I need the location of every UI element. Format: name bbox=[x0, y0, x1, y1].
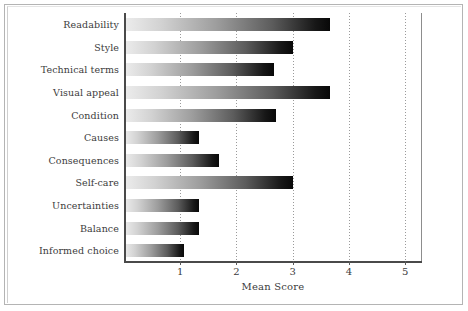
category-label-visual-appeal: Visual appeal bbox=[1, 87, 119, 98]
tick-mark-2 bbox=[236, 261, 237, 265]
category-label-self-care: Self-care bbox=[1, 177, 119, 188]
x-axis-line bbox=[124, 261, 422, 263]
bar-self-care bbox=[124, 176, 293, 189]
bar-technical-terms bbox=[124, 63, 274, 76]
plot-area bbox=[124, 13, 422, 262]
gridline-5 bbox=[405, 13, 406, 262]
category-label-style: Style bbox=[1, 42, 119, 53]
plot-right-edge bbox=[421, 13, 422, 263]
tick-mark-3 bbox=[293, 261, 294, 265]
gridline-3 bbox=[293, 13, 294, 262]
category-label-consequences: Consequences bbox=[1, 155, 119, 166]
category-label-readability: Readability bbox=[1, 19, 119, 30]
tick-mark-5 bbox=[405, 261, 406, 265]
bar-balance bbox=[124, 222, 199, 235]
category-label-causes: Causes bbox=[1, 132, 119, 143]
category-label-uncertainties: Uncertainties bbox=[1, 200, 119, 211]
category-label-technical-terms: Technical terms bbox=[1, 64, 119, 75]
bar-informed-choice bbox=[124, 244, 184, 257]
bar-style bbox=[124, 41, 293, 54]
x-tick-label-2: 2 bbox=[224, 266, 248, 277]
gridline-4 bbox=[349, 13, 350, 262]
bar-visual-appeal bbox=[124, 86, 330, 99]
x-tick-label-4: 4 bbox=[337, 266, 361, 277]
x-axis-title: Mean Score bbox=[124, 281, 422, 292]
bar-uncertainties bbox=[124, 199, 199, 212]
bar-consequences bbox=[124, 154, 219, 167]
x-tick-label-3: 3 bbox=[281, 266, 305, 277]
bar-condition bbox=[124, 109, 276, 122]
bar-readability bbox=[124, 18, 330, 31]
tick-mark-4 bbox=[349, 261, 350, 265]
x-tick-label-1: 1 bbox=[168, 266, 192, 277]
figure-container: ReadabilityStyleTechnical termsVisual ap… bbox=[0, 0, 468, 311]
tick-mark-1 bbox=[180, 261, 181, 265]
y-axis-line bbox=[124, 13, 126, 263]
category-label-balance: Balance bbox=[1, 223, 119, 234]
bar-causes bbox=[124, 131, 199, 144]
x-tick-label-5: 5 bbox=[393, 266, 417, 277]
category-axis-labels: ReadabilityStyleTechnical termsVisual ap… bbox=[0, 13, 119, 262]
category-label-condition: Condition bbox=[1, 110, 119, 121]
category-label-informed-choice: Informed choice bbox=[1, 245, 119, 256]
